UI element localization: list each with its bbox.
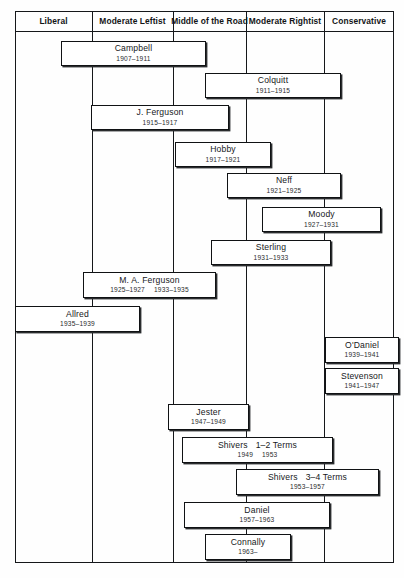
- term-box-hobby: Hobby 1917–1921: [175, 142, 271, 167]
- term-dates-campbell: 1907–1911: [116, 55, 150, 63]
- term-name-odaniel: O'Daniel: [345, 341, 379, 350]
- term-box-campbell: Campbell 1907–1911: [61, 41, 206, 66]
- term-dates-jester: 1947–1949: [191, 418, 226, 426]
- term-label-shivers-1-2: 1–2 Terms: [256, 440, 297, 450]
- term-name-moody: Moody: [308, 210, 335, 219]
- term-box-shivers-3-4-terms: Shivers3–4 Terms 1953–1957: [236, 469, 379, 495]
- term-box-allred: Allred 1935–1939: [15, 306, 140, 332]
- term-box-stevenson: Stevenson 1941–1947: [325, 368, 399, 394]
- term-dates-colquitt: 1911–1915: [256, 87, 290, 95]
- term-dates-neff: 1921–1925: [267, 187, 302, 195]
- term-dates-m-a-ferguson: 1925–19271933–1935: [110, 286, 189, 294]
- term-name-m-a-ferguson: M. A. Ferguson: [119, 276, 179, 285]
- term-dates-shivers-1-2: 19491953: [238, 451, 278, 459]
- term-dates-stevenson: 1941–1947: [345, 382, 380, 390]
- term-name-connally: Connally: [231, 538, 266, 547]
- term-dates-j-ferguson: 1915–1917: [143, 119, 178, 127]
- column-header-middle-of-the-road: Middle of the Road: [173, 11, 246, 31]
- term-dates-end: 1953: [262, 451, 277, 458]
- term-box-m-a-ferguson: M. A. Ferguson 1925–19271933–1935: [83, 272, 216, 298]
- term-name-stevenson: Stevenson: [341, 372, 383, 381]
- term-dates-connally: 1963–: [238, 548, 257, 556]
- term-dates-odaniel: 1939–1941: [345, 351, 380, 359]
- header-separator: [15, 31, 394, 32]
- term-dates-second: 1933–1935: [154, 286, 189, 293]
- term-dates-shivers-3-4: 1953–1957: [290, 483, 325, 491]
- term-box-daniel: Daniel 1957–1963: [184, 502, 330, 528]
- term-name-hobby: Hobby: [210, 145, 236, 154]
- term-name-shivers-3-4: Shivers3–4 Terms: [268, 473, 347, 482]
- term-dates-allred: 1935–1939: [60, 320, 95, 328]
- term-dates-daniel: 1957–1963: [240, 516, 275, 524]
- term-box-jester: Jester 1947–1949: [168, 404, 249, 430]
- column-header-liberal: Liberal: [15, 11, 92, 31]
- term-dates-first: 1925–1927: [110, 286, 145, 293]
- column-header-moderate-leftist: Moderate Leftist: [92, 11, 173, 31]
- term-box-sterling: Sterling 1931–1933: [211, 240, 331, 265]
- term-dates-moody: 1927–1931: [304, 221, 339, 229]
- term-dates-hobby: 1917–1921: [206, 156, 241, 164]
- term-name-shivers-1-2: Shivers1–2 Terms: [218, 441, 297, 450]
- term-name-shivers: Shivers: [218, 440, 248, 450]
- column-header-moderate-rightist: Moderate Rightist: [246, 11, 324, 31]
- term-name-colquitt: Colquitt: [258, 76, 288, 85]
- column-header-conservative: Conservative: [324, 11, 394, 31]
- term-name-allred: Allred: [66, 310, 89, 319]
- term-name-j-ferguson: J. Ferguson: [136, 108, 183, 117]
- term-box-moody: Moody 1927–1931: [262, 207, 381, 232]
- term-name-jester: Jester: [196, 408, 220, 417]
- term-dates-sterling: 1931–1933: [254, 254, 289, 262]
- term-box-odaniel: O'Daniel 1939–1941: [325, 337, 399, 363]
- term-box-j-ferguson: J. Ferguson 1915–1917: [91, 105, 229, 130]
- governor-position-chart: Liberal Moderate Leftist Middle of the R…: [0, 0, 404, 578]
- term-box-connally: Connally 1963–: [205, 534, 291, 560]
- term-box-colquitt: Colquitt 1911–1915: [205, 73, 341, 98]
- term-name-daniel: Daniel: [244, 506, 269, 515]
- term-label-shivers-3-4: 3–4 Terms: [306, 472, 347, 482]
- term-box-neff: Neff 1921–1925: [227, 173, 341, 198]
- term-dates-start: 1949: [238, 451, 253, 458]
- term-name-sterling: Sterling: [256, 243, 286, 252]
- term-name-campbell: Campbell: [115, 44, 153, 53]
- term-box-shivers-1-2-terms: Shivers1–2 Terms 19491953: [182, 437, 333, 463]
- term-name-shivers: Shivers: [268, 472, 298, 482]
- term-name-neff: Neff: [276, 176, 292, 185]
